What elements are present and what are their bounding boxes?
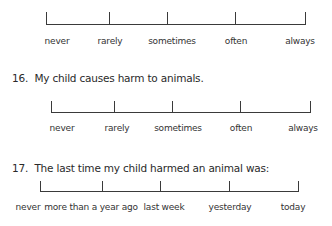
scale-tick-sometimes[interactable] <box>172 101 173 113</box>
scale-tick-today[interactable] <box>298 181 299 192</box>
scale-label: never <box>45 36 70 46</box>
scale-tick-more-than-a-year-ago[interactable] <box>102 181 103 192</box>
scale-label: rarely <box>105 123 130 133</box>
scale-line <box>51 112 311 113</box>
scale-label: more than a year ago <box>44 202 138 212</box>
scale-label: rarely <box>98 36 123 46</box>
scale-tick-always[interactable] <box>305 12 306 25</box>
scale-label: often <box>230 123 252 133</box>
scale-tick-never[interactable] <box>40 181 41 192</box>
scale-line <box>40 191 299 192</box>
question-text: My child causes harm to animals. <box>34 72 203 84</box>
scale-tick-rarely[interactable] <box>114 101 115 113</box>
scale-label: never <box>16 202 41 212</box>
scale-tick-last-week[interactable] <box>160 181 161 192</box>
question-number: 17. <box>12 162 28 174</box>
scale-label: yesterday <box>209 202 252 212</box>
scale-tick-often[interactable] <box>235 12 236 25</box>
question-number: 16. <box>12 72 28 84</box>
scale-label: today <box>281 202 306 212</box>
scale-line <box>46 24 306 25</box>
question-title: 17. The last time my child harmed an ani… <box>12 162 269 174</box>
question-title: 16. My child causes harm to animals. <box>12 72 204 84</box>
scale-tick-often[interactable] <box>240 101 241 113</box>
scale-tick-rarely[interactable] <box>109 12 110 25</box>
scale-label: always <box>285 36 315 46</box>
scale-tick-yesterday[interactable] <box>229 181 230 192</box>
scale-tick-sometimes[interactable] <box>167 12 168 25</box>
scale-tick-never[interactable] <box>51 101 52 113</box>
scale-tick-always[interactable] <box>310 101 311 113</box>
scale-label: sometimes <box>154 123 202 133</box>
scale-label: always <box>288 123 318 133</box>
scale-label: sometimes <box>148 36 196 46</box>
scale-label: last week <box>144 202 185 212</box>
question-text: The last time my child harmed an animal … <box>34 162 269 174</box>
scale-label: never <box>50 123 75 133</box>
scale-label: often <box>225 36 247 46</box>
scale-tick-never[interactable] <box>46 12 47 25</box>
